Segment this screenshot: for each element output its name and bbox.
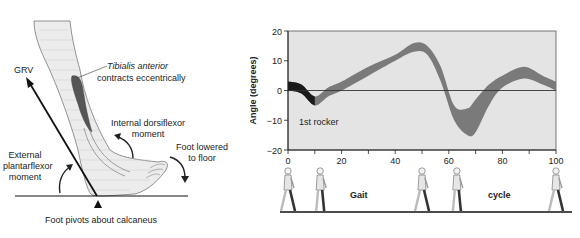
y-tick-label: 0 <box>277 86 282 96</box>
x-tick-label: 80 <box>497 156 507 166</box>
y-tick-label: −10 <box>267 116 282 126</box>
walking-figure-icon <box>316 168 326 211</box>
walking-figure-icon <box>549 168 563 211</box>
annotation-1st-rocker: 1st rocker <box>299 117 339 127</box>
external-moment-line2: plantarflexor <box>3 161 47 172</box>
grv-label: GRV <box>14 65 33 76</box>
internal-moment-line1: Internal dorsiflexor <box>108 118 188 129</box>
internal-moment-line2: moment <box>108 129 188 140</box>
x-tick-label: 40 <box>390 156 400 166</box>
x-tick-label: 100 <box>548 156 563 166</box>
walking-figure-icon <box>453 168 463 211</box>
tibialis-label-italic: Tibialis anterior <box>107 61 168 72</box>
external-moment-line1: External <box>3 150 47 161</box>
y-tick-label: −20 <box>267 146 282 156</box>
x-tick-label: 60 <box>444 156 454 166</box>
gait-label: Gait <box>350 190 368 201</box>
pivot-label: Foot pivots about calcaneus <box>45 215 157 226</box>
y-tick-label: 20 <box>272 27 282 37</box>
leg-shape <box>34 21 167 196</box>
foot-lowered-line1: Foot lowered <box>172 142 232 153</box>
y-axis-label: Angle (degrees) <box>250 56 258 124</box>
foot-lowered-line2: to floor <box>172 153 232 164</box>
internal-moment-label: Internal dorsiflexor moment <box>108 118 188 140</box>
internal-dorsiflexor-arrow-icon <box>118 137 133 158</box>
foot-diagram: GRV Tibialis anterior contracts eccentri… <box>0 0 245 238</box>
walking-figure-icon <box>281 168 295 211</box>
x-tick-label: 20 <box>337 156 347 166</box>
x-tick-label: 0 <box>285 156 290 166</box>
walking-figures <box>276 166 576 214</box>
external-plantarflexor-arrow-icon <box>59 167 70 193</box>
external-moment-line3: moment <box>3 172 47 183</box>
pivot-triangle-icon <box>94 200 102 208</box>
grv-arrowhead-icon <box>26 77 34 88</box>
y-tick-label: 10 <box>272 56 282 66</box>
gait-strip: Gait cycle <box>276 166 576 214</box>
foot-lowered-label: Foot lowered to floor <box>172 142 232 164</box>
cycle-label: cycle <box>488 190 511 201</box>
ankle-angle-chart: −20−1001020020406080100 1st rocker Angle… <box>250 0 580 238</box>
tibialis-label-rest: contracts eccentrically <box>97 73 186 84</box>
external-moment-label: External plantarflexor moment <box>3 150 47 183</box>
walking-figure-icon <box>415 168 429 211</box>
